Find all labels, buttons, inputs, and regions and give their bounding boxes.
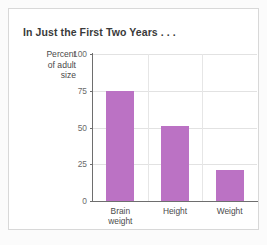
y-tick-mark: [90, 128, 93, 129]
category-divider: [202, 54, 203, 201]
plot-area: 1007550250 Brain weightHeightWeight: [93, 54, 257, 201]
y-axis-title: Percent of adult size: [21, 49, 76, 81]
bar: [106, 91, 134, 201]
y-axis-title-line-3: size: [21, 70, 76, 81]
y-tick-label: 100: [73, 50, 87, 58]
y-tick-mark: [90, 164, 93, 165]
gridline: [93, 54, 257, 55]
x-category-label: Height: [148, 206, 203, 216]
x-category-label: Weight: [202, 206, 257, 216]
y-axis-title-line-1: Percent: [21, 49, 76, 60]
y-tick-label: 75: [78, 87, 87, 95]
category-divider: [148, 54, 149, 201]
page-title: In Just the First Two Years . . .: [23, 26, 176, 38]
y-tick-mark: [90, 91, 93, 92]
y-tick-label: 25: [78, 160, 87, 168]
y-tick-mark: [90, 54, 93, 55]
chart-screenshot: In Just the First Two Years . . . Percen…: [0, 0, 267, 245]
y-axis-title-line-2: of adult: [21, 60, 76, 71]
y-tick-label: 0: [82, 197, 87, 205]
x-category-label: Brain weight: [93, 206, 148, 226]
y-tick-mark: [90, 201, 93, 202]
y-tick-label: 50: [78, 123, 87, 131]
bar: [216, 170, 244, 201]
chart-card: In Just the First Two Years . . . Percen…: [8, 8, 259, 230]
bar: [161, 126, 189, 201]
x-axis-line: [92, 201, 258, 202]
